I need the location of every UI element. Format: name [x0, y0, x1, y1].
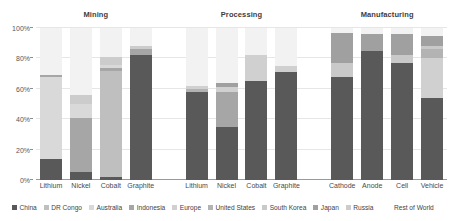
bar-manufacturing-anode[interactable]	[361, 28, 383, 180]
bar-segment-united-states[interactable]	[421, 49, 443, 58]
bar-segment-rest-of-world[interactable]	[421, 28, 443, 36]
legend-label: DR Congo	[51, 204, 82, 211]
bar-segment-china[interactable]	[275, 72, 297, 180]
x-axis-label-lithium: Lithium	[182, 182, 212, 189]
legend-swatch-icon	[172, 205, 177, 210]
bar-segment-rest-of-world[interactable]	[40, 28, 62, 75]
bar-segment-china[interactable]	[245, 81, 267, 180]
legend-item-japan[interactable]: Japan	[313, 204, 338, 211]
legend-label: United States	[216, 204, 256, 211]
bar-segment-japan[interactable]	[361, 34, 383, 51]
bar-mining-nickel[interactable]	[70, 28, 92, 180]
legend-label: Rest of World	[394, 204, 434, 211]
bar-segment-china[interactable]	[70, 172, 92, 180]
bar-segment-rest-of-world[interactable]	[216, 28, 238, 83]
bar-mining-cobalt[interactable]	[100, 28, 122, 180]
x-axis-label-cathode: Cathode	[327, 182, 357, 189]
legend-swatch-icon	[208, 205, 213, 210]
bar-segment-japan[interactable]	[421, 36, 443, 47]
y-axis-tick-mark	[30, 88, 33, 89]
bar-segment-indonesia[interactable]	[70, 118, 92, 173]
x-axis-label-graphite: Graphite	[271, 182, 301, 189]
bar-segment-china[interactable]	[40, 159, 62, 180]
bar-segment-china[interactable]	[331, 77, 353, 180]
legend-item-south-korea[interactable]: South Korea	[262, 204, 306, 211]
bar-segment-japan[interactable]	[331, 33, 353, 63]
legend-item-china[interactable]: China	[12, 204, 37, 211]
bar-manufacturing-cathode[interactable]	[331, 28, 353, 180]
bar-segment-dr-congo[interactable]	[100, 71, 122, 177]
y-axis-tick-mark	[30, 27, 33, 28]
gridline	[36, 27, 447, 28]
x-axis-label-graphite: Graphite	[126, 182, 156, 189]
x-axis-label-anode: Anode	[357, 182, 387, 189]
legend-swatch-icon	[346, 205, 351, 210]
y-axis-tick-mark	[30, 149, 33, 150]
bar-segment-indonesia[interactable]	[216, 92, 238, 127]
bar-processing-cobalt[interactable]	[245, 28, 267, 180]
bar-segment-china[interactable]	[100, 177, 122, 180]
bar-mining-graphite[interactable]	[130, 28, 152, 180]
bar-segment-russia[interactable]	[70, 95, 92, 104]
legend-item-australia[interactable]: Australia	[89, 204, 122, 211]
legend-item-russia[interactable]: Russia	[346, 204, 374, 211]
gridline	[36, 118, 447, 119]
bar-mining-lithium[interactable]	[40, 28, 62, 180]
bar-segment-rest-of-world[interactable]	[70, 28, 92, 95]
y-axis-tick-label: 100%	[12, 25, 30, 32]
bar-segment-rest-of-world[interactable]	[245, 28, 267, 55]
bar-segment-south-korea[interactable]	[331, 63, 353, 77]
legend-swatch-icon	[89, 205, 94, 210]
bar-segment-china[interactable]	[130, 55, 152, 180]
bar-manufacturing-cell[interactable]	[391, 28, 413, 180]
x-axis-label-nickel: Nickel	[212, 182, 242, 189]
bar-segment-rest-of-world[interactable]	[130, 28, 152, 46]
legend-item-rest-of-world[interactable]: Rest of World	[386, 204, 433, 211]
bar-segment-china[interactable]	[216, 127, 238, 180]
bar-segment-europe[interactable]	[421, 58, 443, 98]
legend-label: South Korea	[270, 204, 307, 211]
panel-title-processing: Processing	[182, 10, 302, 19]
legend-item-united-states[interactable]: United States	[208, 204, 255, 211]
bar-manufacturing-vehicle[interactable]	[421, 28, 443, 180]
bar-segment-south-korea[interactable]	[391, 55, 413, 63]
y-axis-tick-label: 60%	[16, 85, 30, 92]
legend-swatch-icon	[44, 205, 49, 210]
panel-title-mining: Mining	[36, 10, 156, 19]
y-axis-tick-label: 0%	[20, 177, 30, 184]
bar-segment-australia[interactable]	[70, 104, 92, 118]
y-axis: 0%20%40%60%80%100%	[0, 28, 33, 180]
y-axis-tick-mark	[30, 57, 33, 58]
bar-processing-graphite[interactable]	[275, 28, 297, 180]
bar-segment-rest-of-world[interactable]	[100, 28, 122, 57]
bar-segment-russia[interactable]	[100, 57, 122, 65]
gridline	[36, 149, 447, 150]
bar-segment-europe[interactable]	[245, 55, 267, 81]
legend-label: Russia	[353, 204, 373, 211]
bar-segment-australia[interactable]	[40, 77, 62, 159]
bar-segment-china[interactable]	[186, 92, 208, 180]
bar-processing-lithium[interactable]	[186, 28, 208, 180]
panel-title-manufacturing: Manufacturing	[327, 10, 447, 19]
legend-swatch-icon	[313, 205, 318, 210]
plot-area	[36, 28, 447, 180]
y-axis-tick-label: 40%	[16, 116, 30, 123]
legend-item-dr-congo[interactable]: DR Congo	[44, 204, 82, 211]
bar-segment-japan[interactable]	[391, 34, 413, 55]
y-axis-tick-label: 80%	[16, 55, 30, 62]
bar-segment-rest-of-world[interactable]	[186, 28, 208, 86]
bar-segment-rest-of-world[interactable]	[275, 28, 297, 66]
chart-legend: ChinaDR CongoAustraliaIndonesiaEuropeUni…	[0, 200, 456, 214]
bar-processing-nickel[interactable]	[216, 28, 238, 180]
legend-swatch-icon	[386, 205, 391, 210]
x-axis-label-cobalt: Cobalt	[96, 182, 126, 189]
legend-item-indonesia[interactable]: Indonesia	[129, 204, 165, 211]
legend-item-europe[interactable]: Europe	[172, 204, 201, 211]
bar-segment-china[interactable]	[421, 98, 443, 180]
bar-segment-china[interactable]	[361, 51, 383, 180]
gridline	[36, 57, 447, 58]
bar-segment-china[interactable]	[391, 63, 413, 180]
x-axis-line	[36, 179, 447, 180]
x-axis-label-cell: Cell	[387, 182, 417, 189]
x-axis-labels: LithiumNickelCobaltGraphiteLithiumNickel…	[36, 182, 447, 194]
